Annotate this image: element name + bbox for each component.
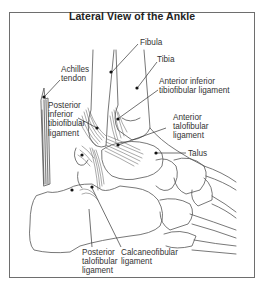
calcaneus-shape xyxy=(30,184,163,253)
tibia-leader xyxy=(138,62,157,87)
metatarsals xyxy=(190,166,236,254)
post-talofib-leader xyxy=(89,209,92,247)
ant-inf-tibiofibular-hatch xyxy=(110,108,127,142)
label-achilles-tendon: Achilles tendon xyxy=(61,65,89,83)
label-fibula: Fibula xyxy=(140,38,162,47)
label-posterior-talofibular-ligament: Posterior talofibular ligament xyxy=(82,248,118,276)
label-tibia: Tibia xyxy=(157,55,174,64)
midfoot-bones xyxy=(156,158,212,248)
ant-inf-tibiofib-leader xyxy=(119,90,158,118)
achilles-leader xyxy=(45,80,60,96)
label-talus: Talus xyxy=(188,149,207,158)
ankle-illustration xyxy=(0,0,264,289)
ant-talofibular-hatch xyxy=(105,136,143,166)
label-posterior-inferior-tibiofibular-ligament: Posterior inferior tibiofibular ligament xyxy=(48,101,85,138)
label-calcaneofibular-ligament: Calcaneofibular ligament xyxy=(121,248,178,266)
label-anterior-inferior-tibiofibular-ligament: Anterior inferior tibiofibular ligament xyxy=(159,77,230,95)
calcaneofib-leader xyxy=(92,188,121,247)
label-anterior-talofibular-ligament: Anterior talofibular ligament xyxy=(173,113,209,141)
